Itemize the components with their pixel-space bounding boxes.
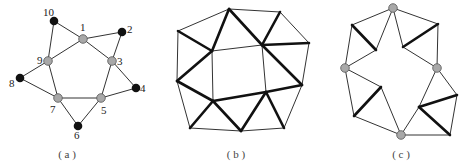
bold-edge xyxy=(354,87,381,116)
node-label-6: 6 xyxy=(74,129,80,141)
graph-edge xyxy=(112,61,136,88)
panel-b-triangulation: ( b ) xyxy=(177,9,309,161)
thin-edge xyxy=(403,47,437,68)
node-label-3: 3 xyxy=(117,55,123,67)
thin-edge xyxy=(437,24,438,68)
graph-edge xyxy=(48,39,83,61)
bold-edge xyxy=(178,31,212,51)
vertex-tg xyxy=(389,4,398,13)
graph-edge xyxy=(83,32,122,39)
bold-edge xyxy=(229,9,262,45)
node-8 xyxy=(16,74,25,83)
graph-edge xyxy=(101,61,112,98)
graph-edge xyxy=(48,21,54,61)
node-7 xyxy=(54,94,63,103)
graph-edge xyxy=(58,98,78,126)
bold-edge xyxy=(262,45,302,85)
panel-caption-a: ( a ) xyxy=(58,148,76,161)
panel-c-triangulation: ( c ) xyxy=(341,4,457,161)
thin-edge xyxy=(393,8,438,24)
bold-edge xyxy=(266,85,302,92)
node-9 xyxy=(44,57,53,66)
node-label-7: 7 xyxy=(50,103,56,115)
bold-edge xyxy=(177,81,213,101)
node-1 xyxy=(79,35,88,44)
thin-edge xyxy=(262,45,266,92)
graph-edge xyxy=(20,78,58,98)
graph-edge xyxy=(54,21,83,39)
thin-edge xyxy=(345,68,381,87)
bold-edge xyxy=(213,92,266,101)
vertex-rg xyxy=(433,64,442,73)
thin-edge xyxy=(241,128,284,131)
node-2 xyxy=(118,28,127,37)
panel-caption-b: ( b ) xyxy=(227,148,246,161)
bold-edge xyxy=(352,25,376,50)
bold-edge xyxy=(262,43,309,45)
thin-edge xyxy=(345,68,354,116)
node-3 xyxy=(108,57,117,66)
bold-edge xyxy=(266,92,284,128)
graph-edge xyxy=(101,88,136,98)
thin-edge xyxy=(437,68,457,95)
bold-edge xyxy=(241,92,266,131)
thin-edge xyxy=(190,128,241,131)
node-4 xyxy=(132,84,141,93)
thin-edge xyxy=(212,45,262,51)
node-5 xyxy=(97,94,106,103)
thin-edge xyxy=(302,43,309,85)
node-label-2: 2 xyxy=(127,23,133,35)
thin-edge xyxy=(284,85,302,128)
node-label-8: 8 xyxy=(9,77,15,89)
vertex-lg xyxy=(341,64,350,73)
graph-edge xyxy=(78,98,101,126)
node-label-9: 9 xyxy=(37,54,43,66)
graph-edge xyxy=(20,61,48,78)
panel-a-graph: 12345678910( a ) xyxy=(9,6,146,161)
bold-edge xyxy=(262,12,280,45)
graph-edge xyxy=(48,61,58,98)
bold-edge xyxy=(419,95,457,107)
thin-edge xyxy=(345,25,352,68)
vertex-bg xyxy=(397,131,406,140)
bold-edge xyxy=(213,101,241,131)
thin-edge xyxy=(212,51,213,101)
thin-edge xyxy=(393,8,403,47)
bold-edge xyxy=(419,107,450,135)
thin-edge xyxy=(401,107,419,135)
node-label-10: 10 xyxy=(43,6,55,18)
thin-edge xyxy=(177,31,178,81)
thin-edge xyxy=(280,12,309,43)
figure-canvas: 12345678910( a ) ( b ) ( c ) xyxy=(0,0,462,168)
panel-caption-c: ( c ) xyxy=(392,148,410,161)
bold-edge xyxy=(177,51,212,81)
thin-edge xyxy=(229,9,280,12)
graph-edge xyxy=(83,39,112,61)
bold-edge xyxy=(190,101,213,128)
bold-edge xyxy=(403,24,438,47)
node-label-5: 5 xyxy=(101,104,107,116)
node-label-1: 1 xyxy=(80,21,86,33)
thin-edge xyxy=(345,50,376,68)
thin-edge xyxy=(450,95,457,135)
node-label-4: 4 xyxy=(140,82,146,94)
